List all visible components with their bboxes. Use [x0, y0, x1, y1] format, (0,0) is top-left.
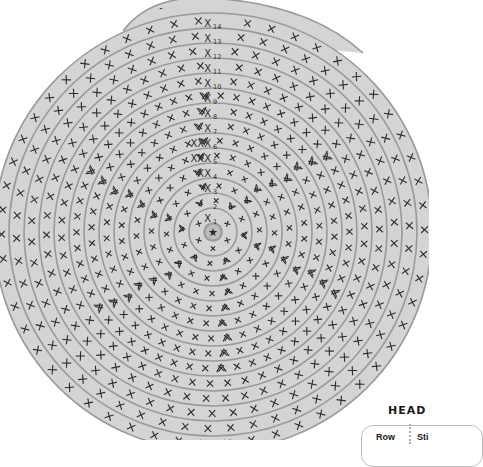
row-number: 6	[213, 143, 217, 151]
row-label: X	[204, 18, 211, 29]
row-number: 11	[213, 68, 221, 76]
row-label: X	[204, 48, 211, 59]
row-number: 13	[213, 38, 221, 46]
start-star-icon: ★	[208, 226, 218, 238]
row-number: 4	[213, 173, 217, 181]
row-label: X	[204, 33, 211, 44]
row-label: X	[204, 183, 211, 194]
row-number: 5	[213, 158, 217, 166]
row-number: 1	[213, 218, 217, 226]
tail-marker: -	[159, 2, 162, 13]
table-divider	[409, 424, 411, 444]
row-label: X	[204, 63, 211, 74]
row-label: X	[204, 213, 211, 224]
row-label: XX	[197, 168, 211, 179]
section-heading: HEAD	[388, 404, 426, 417]
row-number: 12	[213, 53, 221, 61]
row-label: XXX	[190, 153, 211, 164]
row-label: XXX	[190, 138, 211, 149]
row-label: X	[204, 93, 211, 104]
row-label: X	[204, 123, 211, 134]
row-label: X	[204, 78, 211, 89]
table-header-row: Row	[376, 432, 395, 442]
row-label: X	[204, 108, 211, 119]
row-number: 3	[213, 188, 217, 196]
row-number: 14	[213, 23, 221, 31]
row-number: 7	[213, 128, 217, 136]
row-number: 2	[213, 203, 217, 211]
row-stitch-table: Row Sti	[361, 425, 483, 467]
table-header-stitches: Sti	[417, 432, 429, 442]
row-number: 10	[213, 83, 221, 91]
row-number: 8	[213, 113, 217, 121]
row-number: 9	[213, 98, 217, 106]
